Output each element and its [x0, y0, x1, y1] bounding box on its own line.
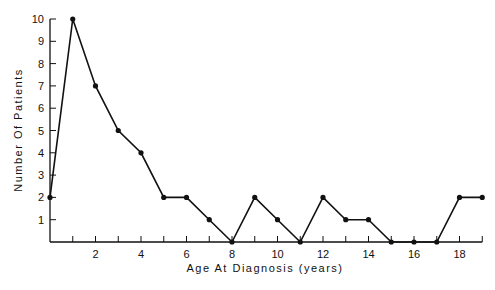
x-tick-label: 10: [271, 248, 283, 260]
y-tick-label: 3: [38, 169, 44, 181]
data-point: [184, 195, 189, 200]
data-point: [389, 239, 394, 244]
data-point: [93, 83, 98, 88]
x-tick-label: 12: [317, 248, 329, 260]
x-tick-label: 14: [362, 248, 374, 260]
y-axis-title: Number Of Patients: [12, 68, 24, 192]
x-tick-label: 2: [92, 248, 98, 260]
data-point: [320, 195, 325, 200]
x-tick-label: 18: [453, 248, 465, 260]
x-tick-label: 4: [138, 248, 144, 260]
y-tick-label: 7: [38, 80, 44, 92]
data-point: [480, 195, 485, 200]
data-line: [50, 19, 482, 242]
data-point: [47, 195, 52, 200]
x-axis-title: Age At Diagnosis (years): [186, 262, 343, 274]
data-point: [70, 16, 75, 21]
y-tick-label: 9: [38, 35, 44, 47]
data-point: [252, 195, 257, 200]
y-tick-label: 8: [38, 58, 44, 70]
y-tick-label: 5: [38, 125, 44, 137]
line-chart: 2468101214161812345678910 Age At Diagnos…: [0, 0, 495, 290]
x-tick-label: 8: [229, 248, 235, 260]
ticks: 2468101214161812345678910: [32, 13, 483, 260]
data-point: [229, 239, 234, 244]
x-tick-label: 16: [408, 248, 420, 260]
data-point: [116, 128, 121, 133]
y-tick-label: 4: [38, 147, 44, 159]
data-point: [411, 239, 416, 244]
y-tick-label: 2: [38, 191, 44, 203]
y-tick-label: 1: [38, 214, 44, 226]
data-point: [457, 195, 462, 200]
data-point: [275, 217, 280, 222]
data-point: [343, 217, 348, 222]
data-point: [366, 217, 371, 222]
y-tick-label: 10: [32, 13, 44, 25]
data-point: [161, 195, 166, 200]
data-point: [138, 150, 143, 155]
data-points: [47, 16, 484, 244]
x-tick-label: 6: [183, 248, 189, 260]
data-point: [434, 239, 439, 244]
data-point: [207, 217, 212, 222]
y-tick-label: 6: [38, 102, 44, 114]
data-point: [298, 239, 303, 244]
